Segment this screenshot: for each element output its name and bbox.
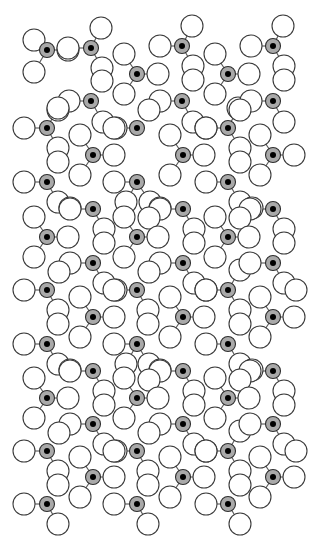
center-atom-core [88,45,94,51]
center-atom-core [44,287,50,293]
ligand-atom [13,333,35,355]
ligand-atom [103,306,125,328]
center-atom-core [270,314,276,320]
center-atom-core [134,71,140,77]
center-atom-core [180,260,186,266]
ligand-atom [273,394,295,416]
center-atom-core [90,206,96,212]
center-atom-core [179,43,185,49]
ligand-atom [229,513,251,535]
ligand-atom [204,83,226,105]
ligand-atom [69,326,91,348]
ligand-atom [159,164,181,186]
ligand-atom [238,226,260,248]
center-atom-core [90,314,96,320]
center-atom-core [44,47,50,53]
ligand-atom [103,117,125,139]
ligand-atom [283,144,305,166]
ligand-atom [13,279,35,301]
ligand-atom [23,61,45,83]
ligand-atom [93,394,115,416]
ligand-atom [103,279,125,301]
ligand-atom [273,111,295,133]
ligand-atom [138,261,160,283]
ligand-atom [48,422,70,444]
center-atom-core [180,368,186,374]
ligand-atom [240,35,262,57]
ligand-atom [195,117,217,139]
ligand-atom [249,286,271,308]
ligand-atom [47,97,69,119]
ligand-atom [181,15,203,37]
center-atom-core [225,71,231,77]
ligand-atom [239,252,261,274]
ligand-atom [138,422,160,444]
ligand-atom [113,407,135,429]
ligand-atom [113,83,135,105]
ligand-atom [91,70,113,92]
ligand-atom [69,286,91,308]
ligand-atom [159,326,181,348]
ligand-atom [57,226,79,248]
ligand-atom [159,124,181,146]
center-atom-core [270,368,276,374]
ligand-atom [137,513,159,535]
center-atom-core [44,501,50,507]
ligand-atom [69,124,91,146]
ligand-atom [57,387,79,409]
ligand-atom [273,69,295,91]
ligand-atom [285,279,307,301]
ligand-atom [113,367,135,389]
ligand-atom [159,446,181,468]
ligand-atom [204,206,226,228]
ligand-atom [113,43,135,65]
ligand-atom [249,124,271,146]
ligand-atom [159,286,181,308]
center-atom-core [44,448,50,454]
ligand-atom [195,333,217,355]
ligand-atom [47,151,69,173]
center-atom-core [225,448,231,454]
center-atom-core [179,98,185,104]
center-atom-core [90,260,96,266]
ligand-atom [272,15,294,37]
ligand-atom [159,486,181,508]
center-atom-core [270,206,276,212]
center-atom-core [270,43,276,49]
center-atom-core [44,179,50,185]
center-atom-core [225,395,231,401]
ligand-atom [147,387,169,409]
ligand-atom [249,326,271,348]
ligand-atom [103,171,125,193]
ligand-atom [204,246,226,268]
ligand-atom [23,246,45,268]
center-atom-core [90,421,96,427]
ligand-atom [47,513,69,535]
center-atom-core [134,125,140,131]
ligand-atom [103,144,125,166]
center-atom-core [270,260,276,266]
ligand-atom [204,43,226,65]
ligand-atom [13,493,35,515]
ligand-atom [229,313,251,335]
ligand-atom [193,306,215,328]
ligand-atom [93,232,115,254]
center-atom-core [90,368,96,374]
center-atom-core [180,314,186,320]
center-atom-core [225,341,231,347]
ligand-atom [147,63,169,85]
center-atom-core [225,179,231,185]
ligand-atom [285,440,307,462]
ligand-atom [195,440,217,462]
ligand-atom [48,261,70,283]
ligand-atom [195,493,217,515]
center-atom-core [134,448,140,454]
crystal-lattice-diagram [0,0,327,547]
center-atom-core [90,152,96,158]
center-atom-core [180,206,186,212]
ligand-atom [229,474,251,496]
center-atom-core [134,501,140,507]
center-atom-core [134,179,140,185]
center-atom-core [225,234,231,240]
ligand-atom [103,333,125,355]
